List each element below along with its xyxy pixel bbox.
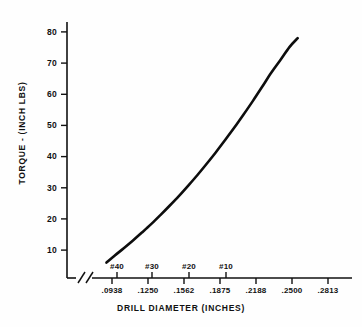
x-tick-label: .1875	[200, 286, 240, 295]
axis-break-icon	[78, 272, 93, 283]
y-tick-label: 20	[35, 214, 57, 224]
drill-size-label-20: #20	[174, 262, 204, 271]
y-tick-label: 80	[35, 27, 57, 37]
x-tick-label: .2500	[272, 286, 312, 295]
x-tick-label: .0938	[92, 286, 132, 295]
plot-area	[0, 0, 362, 327]
x-axis-title: DRILL DIAMETER (INCHES)	[0, 303, 362, 313]
x-tick-label: .2813	[308, 286, 348, 295]
x-tick-label: .1562	[164, 286, 204, 295]
x-tick-label: .2188	[236, 286, 276, 295]
drill-size-ticks	[117, 272, 226, 278]
x-tick-label: .1250	[128, 286, 168, 295]
y-axis-title: TORQUE - (INCH LBS)	[17, 68, 27, 198]
y-tick-label: 50	[35, 120, 57, 130]
drill-size-label-30: #30	[137, 262, 167, 271]
torque-curve	[106, 38, 297, 262]
drill-size-label-10: #10	[211, 262, 241, 271]
y-tick-label: 60	[35, 89, 57, 99]
drill-size-label-40: #40	[102, 262, 132, 271]
y-axis-ticks	[61, 32, 67, 250]
torque-vs-drill-diameter-chart: 10 20 30 40 50 60 70 80 .0938 .1250 .156…	[0, 0, 362, 327]
y-tick-label: 70	[35, 58, 57, 68]
y-tick-label: 40	[35, 151, 57, 161]
y-tick-label: 10	[35, 245, 57, 255]
y-tick-label: 30	[35, 183, 57, 193]
x-axis-ticks	[112, 278, 328, 284]
